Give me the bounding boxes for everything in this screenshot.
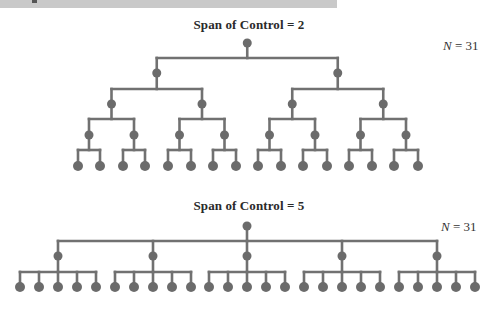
leaf-node bbox=[470, 282, 480, 292]
manager-node bbox=[54, 252, 63, 261]
leaf-node bbox=[72, 282, 82, 292]
leaf-node bbox=[53, 282, 63, 292]
leaf-node bbox=[413, 282, 423, 292]
leaf-node bbox=[280, 282, 290, 292]
root-node bbox=[243, 222, 252, 231]
leaf-node bbox=[451, 282, 461, 292]
leaf-node bbox=[34, 282, 44, 292]
leaf-node bbox=[432, 282, 442, 292]
leaf-node bbox=[223, 282, 233, 292]
leaf-node bbox=[186, 282, 196, 292]
leaf-node bbox=[394, 282, 404, 292]
manager-node bbox=[243, 252, 252, 261]
leaf-node bbox=[110, 282, 120, 292]
leaf-node bbox=[375, 282, 385, 292]
manager-node bbox=[433, 252, 442, 261]
leaf-node bbox=[167, 282, 177, 292]
leaf-node bbox=[15, 282, 25, 292]
org-tree-span-5 bbox=[0, 0, 494, 310]
leaf-node bbox=[337, 282, 347, 292]
leaf-node bbox=[261, 282, 271, 292]
leaf-node bbox=[299, 282, 309, 292]
leaf-node bbox=[91, 282, 101, 292]
manager-node bbox=[338, 252, 347, 261]
leaf-node bbox=[318, 282, 328, 292]
leaf-node bbox=[148, 282, 158, 292]
leaf-node bbox=[204, 282, 214, 292]
leaf-node bbox=[356, 282, 366, 292]
manager-node bbox=[149, 252, 158, 261]
leaf-node bbox=[242, 282, 252, 292]
leaf-node bbox=[129, 282, 139, 292]
